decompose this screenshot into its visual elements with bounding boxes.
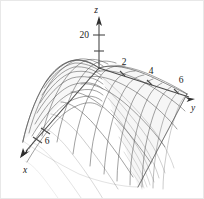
x-axis-arrowhead-2 <box>20 148 30 158</box>
x-tick-label-6: 6 <box>45 136 50 146</box>
y-tick-label-4: 4 <box>149 66 154 76</box>
y-axis-label: y <box>190 103 196 113</box>
x-axis-label: x <box>22 165 28 175</box>
surface-plot-figure: z 20 2 4 6 y 6 x <box>0 0 204 199</box>
plot-canvas: z 20 2 4 6 y 6 x <box>1 1 204 199</box>
y-tick-label-2: 2 <box>122 57 127 67</box>
z-axis-label: z <box>93 5 98 15</box>
y-axis-arrowhead <box>185 97 195 102</box>
z-tick-label-20: 20 <box>80 30 90 40</box>
surface-mesh <box>23 59 187 199</box>
y-tick-label-6: 6 <box>179 75 184 85</box>
